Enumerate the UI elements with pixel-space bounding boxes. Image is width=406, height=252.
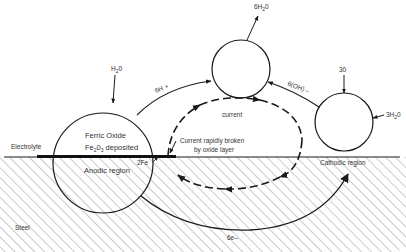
current-broken-arrow	[170, 141, 176, 153]
current-broken-label-line1: Current rapidly broken	[180, 137, 245, 145]
h2o-in-label: H20	[111, 65, 122, 74]
h2o-in-arrow	[113, 75, 115, 103]
six-h-plus-arrow	[137, 81, 211, 115]
six-e-minus-label: 6e–	[227, 234, 238, 241]
cathode-circle	[315, 93, 373, 151]
corrosion-diagram: H20 6H + 6H20 6(OH) – 30 3H20 current Cu…	[0, 0, 406, 252]
anodic-region-label: Anodic region	[84, 166, 130, 175]
fe2o3-deposited-label: Fe203 deposited	[85, 143, 138, 153]
six-oh-minus-label: 6(OH) –	[286, 79, 311, 95]
ferric-oxide-label: Ferric Oxide	[85, 131, 126, 140]
three-o-label: 30	[339, 66, 347, 73]
three-h2o-label: 3H20	[386, 111, 401, 120]
six-h2o-label: 6H20	[254, 3, 269, 12]
current-label: current	[222, 111, 242, 118]
six-h-plus-label: 6H +	[154, 82, 170, 94]
cathodic-region-label: Cathodic region	[320, 159, 366, 167]
steel-label: Steel	[15, 224, 30, 231]
steel-region	[0, 157, 406, 252]
hydrolysis-circle	[212, 40, 270, 98]
electrolyte-label: Electrolyte	[11, 143, 42, 151]
six-h2o-out-arrow	[247, 16, 258, 40]
two-fe-label: 2Fe	[137, 159, 149, 166]
current-broken-label-line2: by oxide layer	[194, 146, 235, 154]
three-h2o-arrow	[373, 115, 384, 118]
